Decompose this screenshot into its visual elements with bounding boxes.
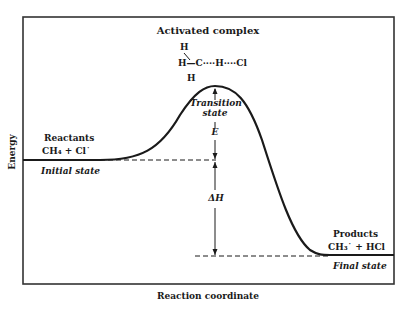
- arrowhead-down-dh: [213, 249, 218, 255]
- enthalpy-label: ΔH: [208, 193, 224, 203]
- y-axis-label: Energy: [7, 134, 17, 169]
- transition-state-label-1: Transition: [190, 98, 242, 108]
- arrowhead-up-dh: [213, 162, 218, 168]
- products-formula: CH₃˙ + HCl: [328, 242, 385, 252]
- structure-h-bottom: H: [187, 73, 196, 83]
- x-axis-label: Reaction coordinate: [157, 291, 259, 301]
- products-title: Products: [333, 229, 378, 239]
- reactants-title: Reactants: [44, 133, 94, 143]
- transition-state-label-2: state: [203, 108, 228, 118]
- arrowhead-up-top: [213, 88, 218, 94]
- activation-energy-label: E: [212, 127, 219, 137]
- initial-state-label: Initial state: [41, 166, 100, 176]
- structure-main: H—C····H····Cl: [178, 58, 247, 68]
- final-state-label: Final state: [333, 261, 387, 271]
- structure-h-top: H: [180, 42, 189, 52]
- arrowhead-down-e: [213, 153, 218, 159]
- reactants-formula: CH₄ + Cl˙: [42, 146, 91, 156]
- activated-complex-title: Activated complex: [157, 25, 259, 36]
